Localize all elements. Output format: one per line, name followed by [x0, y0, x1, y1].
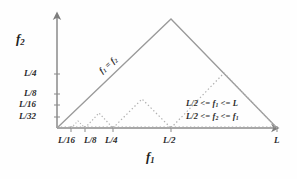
region-1-prefix: L/2 <= [186, 98, 212, 108]
region-2-suffix: <= [218, 111, 232, 121]
y-tick-label-l-over-16: L/16 [19, 100, 36, 109]
y-tick-label-l-over-8: L/8 [24, 89, 37, 98]
region-constraint-line-1: L/2 <= f1 <= L [186, 99, 238, 109]
y-tick-label-l-over-4: L/4 [24, 69, 37, 78]
region-constraint-line-2: L/2 <= f2 <= f1 [186, 112, 239, 122]
y-tick-label-l-over-32: L/32 [19, 112, 36, 121]
x-tick-label-l: L [274, 136, 280, 145]
y-axis-title: f2 [16, 32, 25, 47]
y-axis-title-sub: 2 [20, 37, 24, 47]
sub-triangle-eighth-to-quarter [85, 113, 113, 128]
region-1-suffix: <= L [218, 98, 238, 108]
region-2-prefix: L/2 <= [186, 111, 212, 121]
x-axis-title: f1 [146, 150, 155, 165]
x-tick-label-l-over-4: L/4 [105, 136, 118, 145]
region-2-tail-sub: 1 [236, 115, 239, 121]
figure-canvas: f2 f1 L/4 L/8 L/16 L/32 L/16 L/8 L/4 L/2… [0, 0, 297, 179]
x-tick-label-l-over-2: L/2 [163, 136, 176, 145]
x-tick-label-l-over-16: L/16 [58, 136, 75, 145]
sub-triangle-quarter-to-half [113, 99, 171, 128]
main-triangle-solid [57, 19, 277, 128]
x-axis-title-sub: 1 [150, 155, 154, 165]
x-tick-label-l-over-8: L/8 [84, 136, 97, 145]
x-tick-marks [71, 126, 277, 132]
